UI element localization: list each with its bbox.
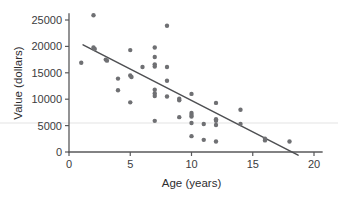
- y-axis-tick-label: 10000: [31, 93, 62, 105]
- y-axis-tick-label: 15000: [31, 67, 62, 79]
- data-point: [214, 101, 218, 105]
- data-point: [79, 61, 83, 65]
- y-axis-tick-label: 0: [56, 146, 62, 158]
- data-point: [238, 122, 242, 126]
- data-point: [177, 115, 181, 119]
- data-point: [128, 100, 132, 104]
- data-point: [263, 138, 267, 142]
- x-axis-tick-label: 20: [308, 158, 320, 170]
- data-point: [177, 98, 181, 102]
- scatter-plot-figure: 050001000015000200002500005101520Age (ye…: [0, 0, 338, 202]
- data-point: [189, 121, 193, 125]
- data-point: [116, 76, 120, 80]
- x-axis-tick-label: 10: [185, 158, 197, 170]
- x-axis-tick-label: 0: [66, 158, 72, 170]
- x-axis-tick-label: 15: [247, 158, 259, 170]
- data-point: [214, 123, 218, 127]
- data-point: [189, 134, 193, 138]
- data-point: [153, 64, 157, 68]
- data-point: [202, 138, 206, 142]
- y-axis-title: Value (dollars): [12, 46, 24, 119]
- data-point: [214, 119, 218, 123]
- chart-canvas: 050001000015000200002500005101520Age (ye…: [0, 0, 338, 202]
- data-point: [116, 88, 120, 92]
- data-point: [214, 139, 218, 143]
- data-point: [238, 108, 242, 112]
- data-point: [287, 139, 291, 143]
- data-point: [153, 119, 157, 123]
- x-axis-tick-label: 5: [127, 158, 133, 170]
- y-axis-tick-label: 20000: [31, 40, 62, 52]
- data-point: [153, 94, 157, 98]
- data-point: [189, 114, 193, 118]
- x-axis-title: Age (years): [162, 177, 222, 189]
- data-point: [140, 65, 144, 69]
- data-point: [165, 79, 169, 83]
- data-point: [105, 58, 109, 62]
- data-point: [129, 75, 133, 79]
- data-point: [165, 65, 169, 69]
- data-point: [153, 55, 157, 59]
- y-axis-tick-label: 25000: [31, 14, 62, 26]
- data-point: [93, 47, 97, 51]
- data-point: [128, 48, 132, 52]
- data-point: [189, 92, 193, 96]
- data-point: [153, 45, 157, 49]
- data-point: [91, 13, 95, 17]
- data-point: [165, 94, 169, 98]
- y-axis-tick-label: 5000: [38, 120, 62, 132]
- data-point: [202, 122, 206, 126]
- data-point: [165, 24, 169, 28]
